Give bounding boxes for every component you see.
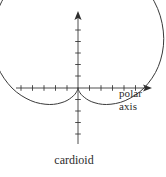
cardioid-polar-diagram: polar axis cardioid (0, 0, 166, 177)
polar-axis-label-line1: polar (119, 87, 142, 99)
polar-axis-label-line2: axis (119, 101, 142, 112)
figure-caption: cardioid (0, 154, 148, 166)
polar-axis-label: polar axis (119, 88, 142, 112)
